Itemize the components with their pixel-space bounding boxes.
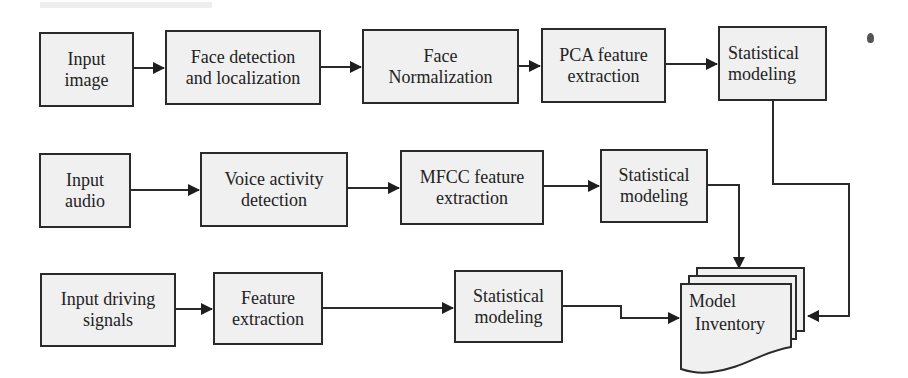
node-label: Inventory — [689, 313, 765, 336]
node-label: and localization — [186, 68, 300, 89]
model-inventory-label: Model Inventory — [689, 290, 765, 336]
node-label: Voice activity — [224, 169, 323, 190]
node-label: Feature — [232, 288, 304, 309]
node-label: extraction — [559, 66, 647, 87]
node-label: audio — [65, 191, 105, 212]
pca-feature-extraction-node: PCA featureextraction — [541, 28, 666, 103]
node-label: MFCC feature — [420, 167, 524, 188]
node-label: Statistical — [619, 165, 690, 186]
node-label: Face — [389, 46, 493, 67]
node-label: Input driving — [61, 289, 156, 310]
node-label: Statistical — [728, 43, 799, 64]
face-normalization-node: FaceNormalization — [362, 29, 519, 104]
voice-activity-detection-node: Voice activitydetection — [200, 152, 348, 227]
node-label: Model — [689, 290, 765, 313]
node-label: modeling — [619, 186, 690, 207]
node-label: Input — [65, 49, 109, 70]
feature-extraction-node: Featureextraction — [213, 272, 323, 345]
node-label: modeling — [728, 64, 799, 85]
statistical-modeling-image-node: Statisticalmodeling — [718, 26, 827, 101]
arrow-statistical-driving-to-inventory — [562, 306, 679, 318]
node-label: extraction — [232, 309, 304, 330]
node-label: Statistical — [473, 286, 544, 307]
node-label: image — [65, 70, 109, 91]
input-audio-node: Inputaudio — [39, 153, 131, 228]
statistical-modeling-driving-node: Statisticalmodeling — [454, 270, 563, 343]
mfcc-feature-extraction-node: MFCC featureextraction — [400, 150, 544, 225]
node-label: detection — [224, 190, 323, 211]
node-label: Input — [65, 170, 105, 191]
input-driving-signals-node: Input drivingsignals — [40, 273, 176, 347]
node-label: Face detection — [186, 47, 300, 68]
node-label: PCA feature — [559, 45, 647, 66]
statistical-modeling-audio-node: Statisticalmodeling — [600, 149, 708, 223]
arrow-statistical-audio-to-inventory — [707, 185, 739, 268]
face-detection-node: Face detectionand localization — [165, 30, 321, 105]
input-image-node: Inputimage — [39, 32, 134, 107]
node-label: Normalization — [389, 67, 493, 88]
node-label: extraction — [420, 188, 524, 209]
node-label: modeling — [473, 307, 544, 328]
node-label: signals — [61, 310, 156, 331]
